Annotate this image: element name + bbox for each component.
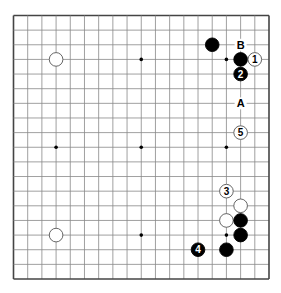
stone-disc xyxy=(220,214,234,228)
white-stone-3: 3 xyxy=(220,184,234,198)
star-point xyxy=(139,233,143,237)
stone-disc xyxy=(220,243,234,257)
star-point xyxy=(139,145,143,149)
white-stone-1: 1 xyxy=(248,53,262,67)
stone-disc xyxy=(234,53,248,67)
black-stone xyxy=(234,214,248,228)
black-stone-2: 2 xyxy=(234,67,248,81)
star-point xyxy=(139,58,143,62)
black-stone xyxy=(234,53,248,67)
move-number: 4 xyxy=(195,244,201,255)
marker-label-b: B xyxy=(237,39,245,51)
stone-disc xyxy=(49,53,63,67)
star-point xyxy=(225,145,229,149)
go-board: BA 12345 xyxy=(0,0,281,293)
star-point xyxy=(225,58,229,62)
black-stone xyxy=(234,228,248,242)
stone-disc xyxy=(234,228,248,242)
star-point xyxy=(54,145,58,149)
stone-disc xyxy=(205,38,219,52)
star-point xyxy=(225,233,229,237)
white-stone xyxy=(49,228,63,242)
move-number: 3 xyxy=(224,186,230,197)
black-stone xyxy=(205,38,219,52)
stone-disc xyxy=(234,199,248,213)
white-stone xyxy=(234,199,248,213)
black-stone-4: 4 xyxy=(191,243,205,257)
white-stone-5: 5 xyxy=(234,126,248,140)
stone-disc xyxy=(49,228,63,242)
move-number: 5 xyxy=(238,127,244,138)
white-stone xyxy=(220,214,234,228)
marker-label-a: A xyxy=(237,97,245,109)
white-stone xyxy=(49,53,63,67)
move-number: 1 xyxy=(252,54,258,65)
stone-disc xyxy=(234,214,248,228)
move-number: 2 xyxy=(238,69,244,80)
black-stone xyxy=(220,243,234,257)
